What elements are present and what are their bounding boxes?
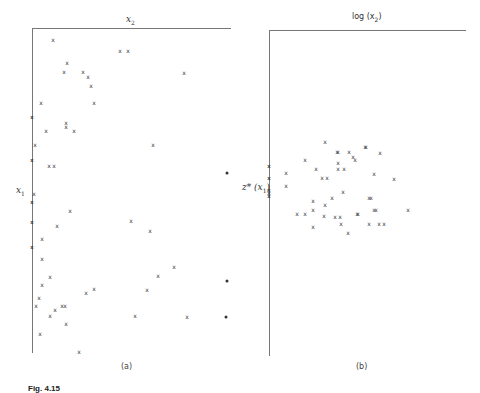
data-point-marker: x [64, 124, 68, 130]
data-point-marker: x [40, 256, 44, 262]
data-point-marker: x [33, 142, 37, 148]
data-point-marker: x [303, 211, 307, 217]
data-point-marker: x [378, 150, 382, 156]
data-point-marker: x [339, 221, 343, 227]
data-point-marker: x [126, 48, 130, 54]
data-point-marker: x [40, 282, 44, 288]
data-point-marker: x [311, 198, 315, 204]
axis-rug-marker: x [30, 157, 33, 163]
data-point-marker: x [81, 69, 85, 75]
panel-b-y-label: z* (x1) [242, 182, 270, 194]
panel-b-x-label: log (x2) [352, 12, 382, 23]
data-point-marker: x [145, 287, 149, 293]
data-point-marker: x [303, 157, 307, 163]
data-point-marker: x [346, 230, 350, 236]
data-point-marker: x [148, 228, 152, 234]
data-point-marker: x [53, 307, 57, 313]
panel-a-sublabel: (a) [121, 362, 132, 371]
axis-rug-marker: x [267, 163, 270, 169]
data-point-marker: x [341, 189, 345, 195]
data-point-marker: x [68, 208, 72, 214]
data-point-marker: x [406, 207, 410, 213]
data-point-marker: x [356, 211, 360, 217]
data-point-marker: x [323, 202, 327, 208]
data-point-marker: x [118, 48, 122, 54]
data-point-marker: x [63, 303, 67, 309]
data-point-marker: x [44, 128, 48, 134]
edge-dot-marker [226, 280, 229, 283]
data-point-marker: x [133, 313, 137, 319]
data-point-marker: x [47, 163, 51, 169]
data-point-marker: x [311, 224, 315, 230]
data-point-marker: x [333, 214, 337, 220]
data-point-marker: x [89, 83, 93, 89]
data-point-marker: x [374, 207, 378, 213]
data-point-marker: x [295, 211, 299, 217]
axis-rug-marker: x [30, 244, 33, 250]
panel-b-top-axis [269, 30, 466, 31]
data-point-marker: x [65, 60, 69, 66]
data-point-marker: x [38, 331, 42, 337]
data-point-marker: x [51, 37, 55, 43]
data-point-marker: x [353, 157, 357, 163]
data-point-marker: x [55, 223, 59, 229]
data-point-marker: x [336, 149, 340, 155]
axis-rug-marker: x [267, 193, 270, 199]
data-point-marker: x [156, 273, 160, 279]
data-point-marker: x [92, 100, 96, 106]
panel-a-x-label: x2 [126, 14, 135, 26]
data-point-marker: x [336, 166, 340, 172]
data-point-marker: x [284, 170, 288, 176]
axis-rug-marker: x [30, 199, 33, 205]
data-point-marker: x [84, 290, 88, 296]
edge-dot-marker [226, 172, 229, 175]
data-point-marker: x [382, 221, 386, 227]
edge-dot-marker [225, 316, 228, 319]
data-point-marker: x [64, 321, 68, 327]
data-point-marker: x [172, 264, 176, 270]
data-point-marker: x [52, 163, 56, 169]
panel-a-y-label: x1 [16, 185, 25, 197]
axis-rug-marker: x [267, 175, 270, 181]
data-point-marker: x [37, 295, 41, 301]
data-point-marker: x [185, 314, 189, 320]
data-point-marker: x [367, 221, 371, 227]
axis-rug-marker: x [30, 219, 33, 225]
data-point-marker: x [369, 195, 373, 201]
data-point-marker: x [151, 142, 155, 148]
data-point-marker: x [40, 236, 44, 242]
data-point-marker: x [330, 195, 334, 201]
data-point-marker: x [364, 144, 368, 150]
data-point-marker: x [311, 207, 315, 213]
data-point-marker: x [314, 166, 318, 172]
data-point-marker: x [39, 100, 43, 106]
data-point-marker: x [392, 176, 396, 182]
data-point-marker: x [92, 286, 96, 292]
data-point-marker: x [182, 70, 186, 76]
data-point-marker: x [323, 139, 327, 145]
data-point-marker: x [48, 313, 52, 319]
panel-a-top-axis [32, 28, 231, 29]
figure-caption: Fig. 4.15 [28, 384, 60, 393]
data-point-marker: x [62, 69, 66, 75]
data-point-marker: x [377, 221, 381, 227]
data-point-marker: x [320, 175, 324, 181]
data-point-marker: x [77, 349, 81, 355]
data-point-marker: x [129, 218, 133, 224]
data-point-marker: x [86, 74, 90, 80]
data-point-marker: x [32, 191, 36, 197]
data-point-marker: x [284, 183, 288, 189]
data-point-marker: x [34, 303, 38, 309]
data-point-marker: x [48, 274, 52, 280]
axis-rug-marker: x [30, 114, 33, 120]
data-point-marker: x [342, 166, 346, 172]
data-point-marker: x [325, 175, 329, 181]
data-point-marker: x [372, 171, 376, 177]
panel-b-sublabel: (b) [356, 362, 367, 371]
data-point-marker: x [72, 128, 76, 134]
data-point-marker: x [322, 213, 326, 219]
